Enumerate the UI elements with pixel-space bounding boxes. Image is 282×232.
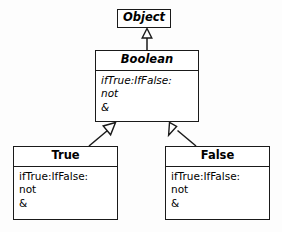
member-item: not — [171, 183, 265, 197]
member-item: not — [101, 87, 194, 101]
class-box-false[interactable]: False ifTrue:IfFalse: not & — [165, 146, 270, 220]
member-item: ifTrue:IfFalse: — [19, 170, 113, 184]
member-item: ifTrue:IfFalse: — [101, 74, 194, 88]
member-item: not — [19, 183, 113, 197]
class-name-object: Object — [118, 10, 170, 26]
member-item: & — [19, 197, 113, 211]
members-compartment-true: ifTrue:IfFalse: not & — [14, 167, 117, 220]
member-item: & — [171, 197, 265, 211]
uml-class-diagram-canvas: Object Boolean ifTrue:IfFalse: not & Tru… — [0, 0, 282, 232]
generalization-true-to-boolean — [89, 123, 116, 147]
member-item: & — [101, 101, 194, 115]
class-name-false: False — [166, 147, 269, 166]
generalization-boolean-to-object — [142, 29, 152, 51]
class-name-true: True — [14, 147, 117, 166]
generalization-false-to-boolean — [169, 123, 196, 147]
member-item: ifTrue:IfFalse: — [171, 170, 265, 184]
members-compartment-boolean: ifTrue:IfFalse: not & — [96, 71, 198, 122]
class-box-object[interactable]: Object — [117, 9, 171, 28]
members-compartment-false: ifTrue:IfFalse: not & — [166, 167, 269, 220]
class-name-boolean: Boolean — [96, 51, 198, 70]
class-box-boolean[interactable]: Boolean ifTrue:IfFalse: not & — [95, 50, 199, 122]
class-box-true[interactable]: True ifTrue:IfFalse: not & — [13, 146, 118, 220]
